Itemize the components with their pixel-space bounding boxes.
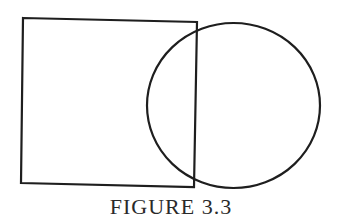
- circle-shape: [147, 23, 320, 188]
- figure-caption: FIGURE 3.3: [0, 196, 342, 218]
- figure-diagram: [0, 0, 342, 219]
